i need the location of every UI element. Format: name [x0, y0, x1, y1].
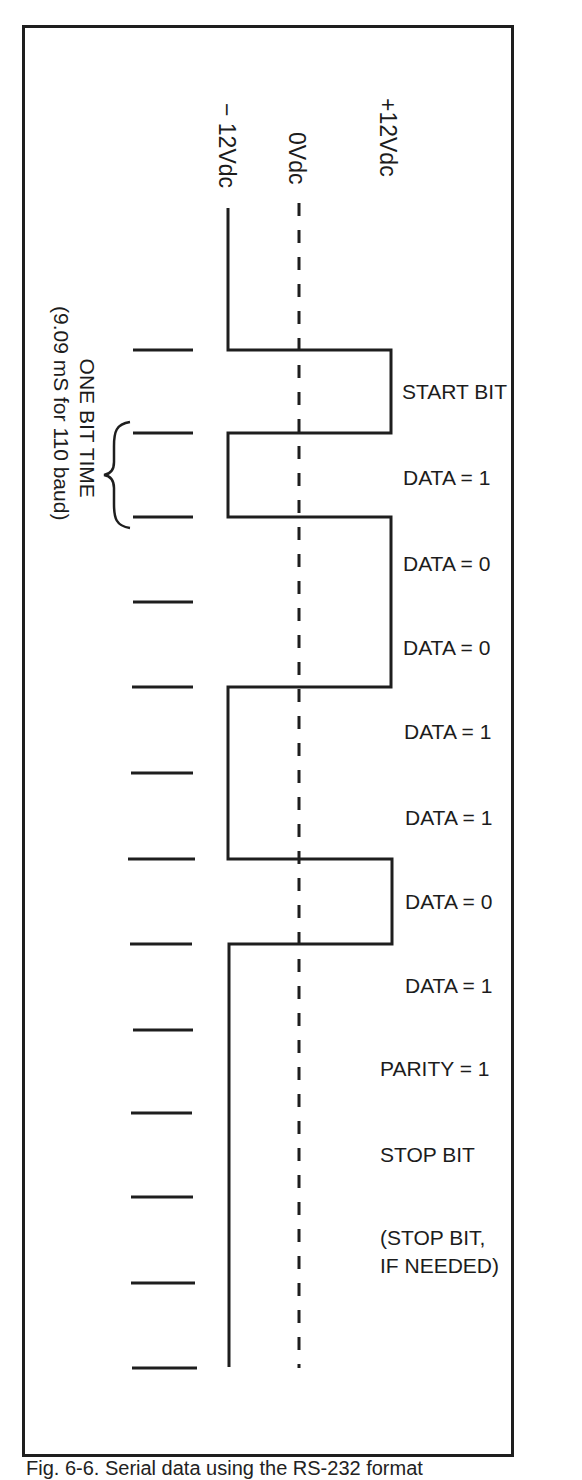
bit-time-ticks: [128, 350, 197, 1368]
bit-label-stop: STOP BIT: [380, 1143, 475, 1167]
one-bit-time-note: ONE BIT TIME (9.09 mS for 110 baud): [48, 306, 100, 520]
bit-label-data-3: DATA = 0: [403, 636, 490, 660]
optional-stop-line-1: (STOP BIT,: [380, 1224, 499, 1252]
bit-label-parity: PARITY = 1: [380, 1057, 490, 1081]
rs232-signal-waveform: [228, 208, 392, 1367]
bit-label-data-2: DATA = 0: [403, 552, 490, 576]
bit-label-start: START BIT: [402, 380, 507, 404]
zero-volt-label: 0Vdc: [283, 132, 310, 184]
one-bit-time-detail: (9.09 mS for 110 baud): [48, 306, 74, 520]
bit-label-data-6: DATA = 0: [405, 890, 492, 914]
bit-label-optional-stop: (STOP BIT, IF NEEDED): [380, 1224, 499, 1280]
figure-caption: Fig. 6-6. Serial data using the RS-232 f…: [26, 1457, 423, 1480]
optional-stop-line-2: IF NEEDED): [380, 1252, 499, 1280]
one-bit-time-title: ONE BIT TIME: [74, 306, 100, 520]
bit-label-data-5: DATA = 1: [405, 806, 492, 830]
bit-label-data-1: DATA = 1: [403, 466, 490, 490]
bit-label-data-4: DATA = 1: [404, 720, 491, 744]
pos-12v-label: +12Vdc: [374, 98, 401, 177]
bit-time-brace-icon: [104, 422, 130, 528]
bit-label-data-7: DATA = 1: [405, 974, 492, 998]
neg-12v-label: − 12Vdc: [213, 103, 240, 188]
